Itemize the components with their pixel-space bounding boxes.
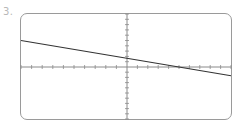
graph-plot xyxy=(0,0,245,130)
